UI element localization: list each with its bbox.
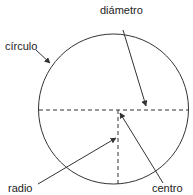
circle-label: círculo	[5, 40, 37, 52]
circle-pointer-arrow	[36, 50, 50, 63]
center-label: centro	[152, 182, 183, 194]
radius-pointer-arrow	[38, 138, 116, 184]
diameter-pointer-arrow	[123, 30, 146, 106]
center-pointer-arrow	[120, 113, 163, 183]
circle-shape	[39, 34, 189, 184]
radius-label: radio	[8, 182, 32, 194]
circle-diagram: diámetro círculo radio centro	[0, 0, 193, 195]
diameter-label: diámetro	[100, 4, 143, 16]
